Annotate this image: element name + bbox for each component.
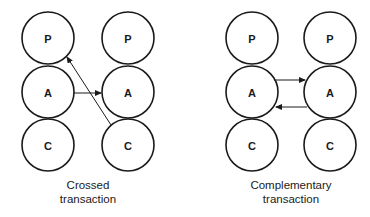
crossed-left-parent-label: P — [44, 33, 51, 45]
complementary-caption-line1: Complementary — [231, 178, 351, 192]
crossed-caption-line2: transaction — [28, 192, 148, 206]
complementary-right-parent-label: P — [326, 33, 333, 45]
complementary-left-adult-label: A — [248, 87, 256, 99]
complementary-right-child-label: C — [326, 140, 334, 152]
crossed-right-parent-label: P — [124, 33, 131, 45]
crossed-left-ego-states: P A C — [22, 12, 74, 171]
crossed-left-child-label: C — [44, 140, 52, 152]
crossed-right-adult-label: A — [124, 87, 132, 99]
crossed-right-child-label: C — [124, 140, 132, 152]
complementary-left-child-label: C — [248, 140, 256, 152]
crossed-right-ego-states: P A C — [102, 12, 154, 171]
complementary-right-ego-states: P A C — [304, 12, 356, 171]
complementary-right-adult-label: A — [326, 87, 334, 99]
crossed-left-adult-label: A — [44, 87, 52, 99]
complementary-left-ego-states: P A C — [226, 12, 278, 171]
crossed-caption-line1: Crossed — [28, 178, 148, 192]
complementary-left-parent-label: P — [248, 33, 255, 45]
crossed-caption: Crossed transaction — [28, 178, 148, 206]
complementary-caption-line2: transaction — [231, 192, 351, 206]
complementary-caption: Complementary transaction — [231, 178, 351, 206]
